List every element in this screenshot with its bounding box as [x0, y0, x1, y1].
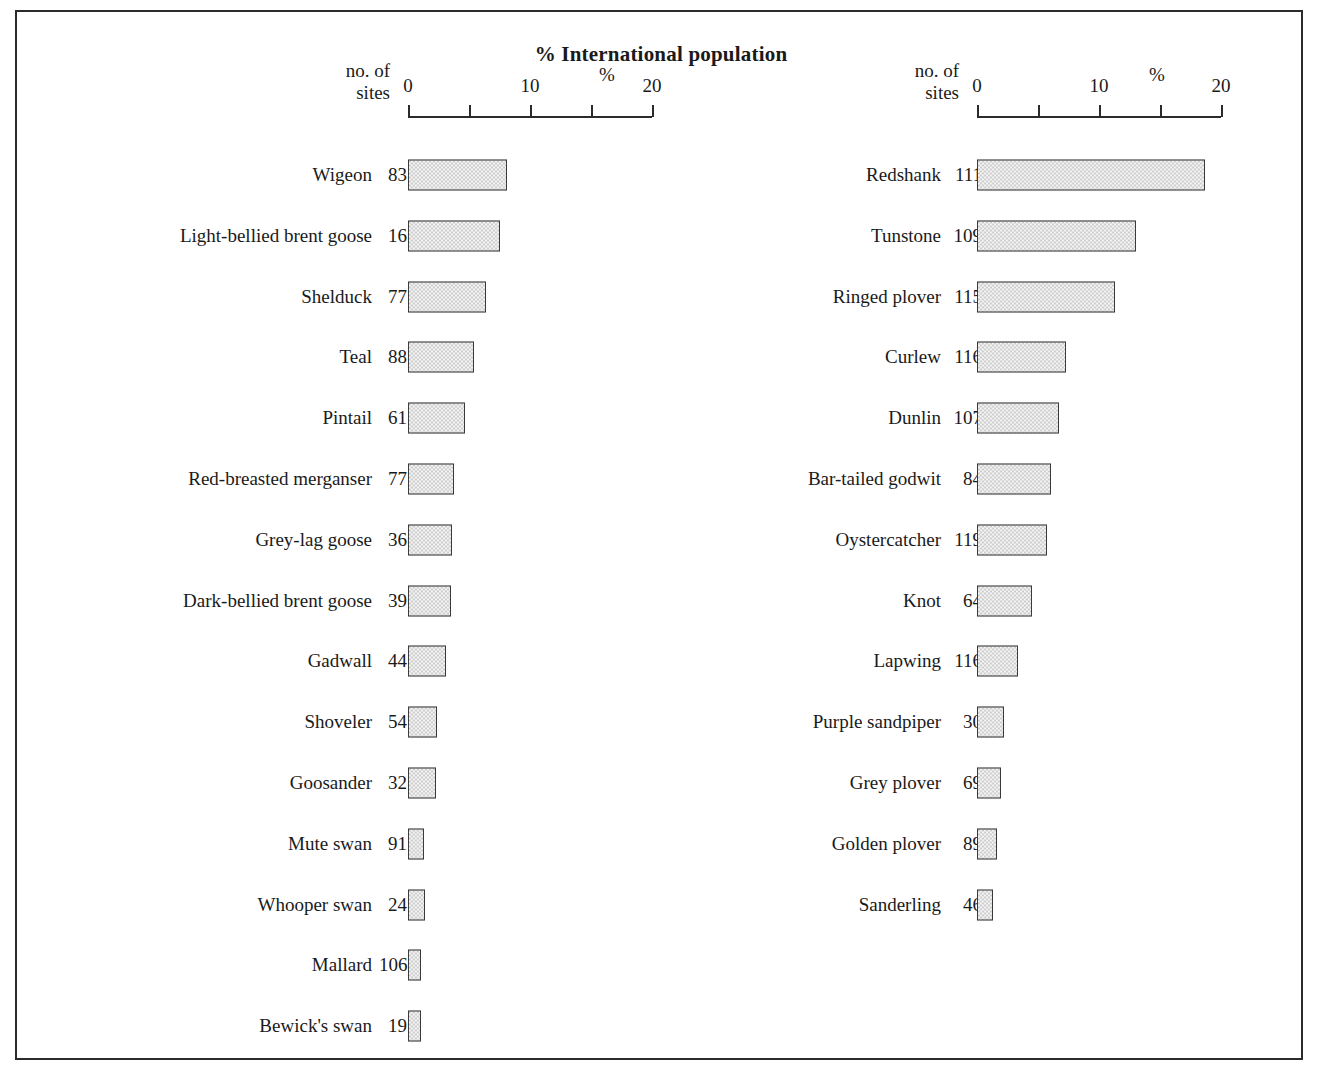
- chart-row: Tunstone109: [572, 216, 1241, 256]
- category-label: Sanderling: [859, 894, 941, 916]
- category-label: Dunlin: [888, 407, 941, 429]
- site-count: 88: [379, 346, 407, 368]
- bar: [977, 889, 993, 920]
- bar: [408, 585, 451, 616]
- category-label: Bar-tailed godwit: [808, 468, 941, 490]
- axis-tick: [1221, 105, 1223, 117]
- category-label: Oystercatcher: [836, 529, 942, 551]
- chart-page: % International population no. of sites …: [0, 0, 1320, 1076]
- category-label: Dark-bellied brent goose: [183, 590, 372, 612]
- category-label: Shoveler: [304, 711, 372, 733]
- site-count: 39: [379, 590, 407, 612]
- category-label: Tunstone: [871, 225, 941, 247]
- bar: [977, 768, 1001, 799]
- axis-tick: [1099, 105, 1101, 117]
- bar: [977, 342, 1066, 373]
- site-count: 54: [379, 711, 407, 733]
- bar: [408, 220, 500, 251]
- bar: [408, 281, 486, 312]
- bar: [408, 342, 474, 373]
- chart-row: Purple sandpiper30: [572, 702, 1241, 742]
- axis-tick: [530, 105, 532, 117]
- site-count: 61: [379, 407, 407, 429]
- axis-tick-label: 0: [385, 75, 431, 97]
- category-label: Redshank: [866, 164, 941, 186]
- site-count: 83: [379, 164, 407, 186]
- category-label: Purple sandpiper: [813, 711, 941, 733]
- chart-row: Golden plover89: [572, 824, 1241, 864]
- axis-tick-label: 20: [1198, 75, 1244, 97]
- bar: [977, 220, 1136, 251]
- site-count: 36: [379, 529, 407, 551]
- category-label: Grey-lag goose: [255, 529, 372, 551]
- site-count: 44: [379, 650, 407, 672]
- axis-tick: [977, 105, 979, 117]
- site-count: 77: [379, 468, 407, 490]
- bar: [977, 160, 1205, 191]
- chart-frame: % International population no. of sites …: [15, 10, 1303, 1060]
- axis-tick: [1038, 105, 1040, 117]
- chart-row: Curlew116: [572, 337, 1241, 377]
- category-label: Teal: [340, 346, 372, 368]
- bar: [408, 403, 465, 434]
- bar: [977, 646, 1018, 677]
- category-label: Shelduck: [301, 286, 372, 308]
- category-label: Knot: [903, 590, 941, 612]
- category-label: Lapwing: [873, 650, 941, 672]
- bar: [408, 768, 436, 799]
- bar: [977, 403, 1059, 434]
- right-x-axis: 01020: [977, 97, 1221, 127]
- bar: [408, 160, 507, 191]
- category-label: Curlew: [885, 346, 941, 368]
- category-label: Pintail: [322, 407, 372, 429]
- bar: [408, 950, 421, 981]
- bar: [977, 585, 1032, 616]
- bar: [977, 707, 1004, 738]
- category-label: Gadwall: [308, 650, 372, 672]
- panel-right: no. of sites % 01020 Redshank111Tunstone…: [572, 12, 1305, 1062]
- axis-tick-label: 10: [1076, 75, 1122, 97]
- right-sites-header: no. of sites: [759, 60, 959, 105]
- chart-row: Sanderling46: [572, 885, 1241, 925]
- category-label: Mallard: [312, 954, 372, 976]
- category-label: Light-bellied brent goose: [180, 225, 372, 247]
- chart-row: Lapwing116: [572, 641, 1241, 681]
- bar: [977, 281, 1115, 312]
- category-label: Goosander: [290, 772, 372, 794]
- bar: [408, 524, 452, 555]
- left-sites-header: no. of sites: [190, 60, 390, 105]
- bar: [408, 889, 425, 920]
- site-count: 19: [379, 1015, 407, 1037]
- axis-tick: [408, 105, 410, 117]
- site-count: 77: [379, 286, 407, 308]
- right-pct-header: %: [1137, 64, 1177, 86]
- chart-row: Dunlin107: [572, 398, 1241, 438]
- category-label: Grey plover: [850, 772, 941, 794]
- category-label: Mute swan: [288, 833, 372, 855]
- site-count: 91: [379, 833, 407, 855]
- category-label: Whooper swan: [258, 894, 373, 916]
- axis-tick-label: 0: [954, 75, 1000, 97]
- bar: [408, 707, 437, 738]
- bar: [408, 464, 454, 495]
- chart-row: Oystercatcher119: [572, 520, 1241, 560]
- category-label: Ringed plover: [833, 286, 941, 308]
- axis-tick: [1160, 105, 1162, 117]
- axis-tick-label: 10: [507, 75, 553, 97]
- bar: [977, 464, 1051, 495]
- site-count: 106: [379, 954, 407, 976]
- chart-row: Ringed plover115: [572, 277, 1241, 317]
- bar: [977, 524, 1047, 555]
- axis-tick: [469, 105, 471, 117]
- chart-row: Grey plover69: [572, 763, 1241, 803]
- category-label: Red-breasted merganser: [188, 468, 372, 490]
- site-count: 24: [379, 894, 407, 916]
- chart-row: Redshank111: [572, 155, 1241, 195]
- site-count: 32: [379, 772, 407, 794]
- bar: [408, 646, 446, 677]
- chart-row: Knot64: [572, 581, 1241, 621]
- bar: [408, 1011, 421, 1042]
- category-label: Wigeon: [313, 164, 372, 186]
- bar: [977, 828, 997, 859]
- chart-row: Bar-tailed godwit84: [572, 459, 1241, 499]
